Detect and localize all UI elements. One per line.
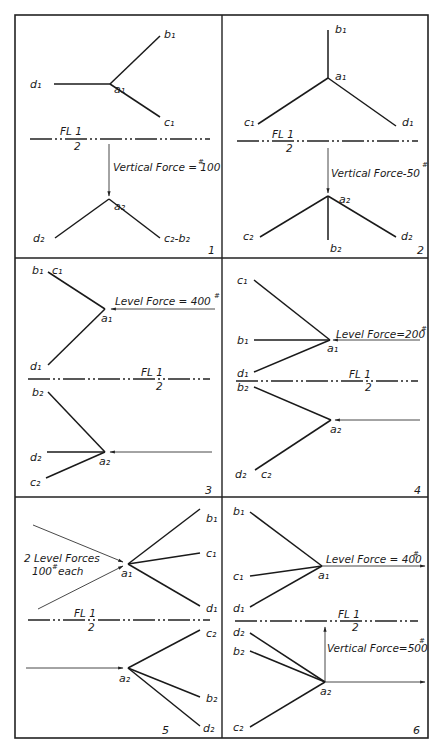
label-a1: a₁ [318, 569, 329, 582]
member-a2-d2 [128, 668, 200, 726]
label-d2: d₂ [30, 451, 42, 464]
fl-label-bottom: 2 [352, 621, 359, 633]
member-a1-d1 [254, 340, 330, 372]
member-a2-b2 [48, 392, 105, 452]
label-b1: b₁ [164, 28, 175, 41]
force-note: Level Force = 400 [115, 295, 211, 307]
force-note: Level Force = 400 [326, 553, 422, 565]
force-diagram-sheet: d₁ a₁ b₁ c₁ FL 1 2 Vertical Force = 100 … [0, 0, 441, 752]
fl-label-top: FL 1 [60, 125, 82, 137]
member-a2-d2 [55, 199, 109, 238]
member-a2-b2 [254, 387, 331, 420]
member-a1-d1 [128, 564, 200, 606]
force-unit: # [413, 550, 419, 558]
member-a1-d1 [328, 78, 396, 126]
label-b1: b₁ [335, 23, 346, 36]
force-note-suffix: each [58, 565, 83, 577]
label-c1: c₁ [164, 116, 174, 129]
force-note: Vertical Force-50 [331, 167, 420, 179]
label-c2-b2: c₂-b₂ [164, 232, 190, 245]
label-d1: d₁ [237, 367, 248, 380]
label-a2: a₂ [339, 193, 351, 206]
label-d2: d₂ [235, 468, 247, 481]
member-a1-b1 [250, 512, 322, 566]
label-d2: d₂ [33, 232, 45, 245]
force-unit: # [214, 292, 220, 300]
label-d1: d₁ [30, 78, 41, 91]
label-a2: a₂ [119, 672, 131, 685]
label-d2: d₂ [401, 230, 413, 243]
member-a2-c2 [128, 630, 200, 668]
panel-number: 5 [162, 724, 169, 737]
label-d1: d₁ [402, 116, 413, 129]
panel-6: b₁ c₁ a₁ d₁ Level Force = 400 # FL 1 2 V… [233, 505, 428, 737]
fl-label-bottom: 2 [156, 380, 163, 392]
fl-label-top: FL 1 [74, 607, 96, 619]
panel-number: 3 [205, 484, 212, 497]
label-b2: b₂ [237, 381, 249, 394]
label-a2: a₂ [114, 200, 126, 213]
label-c1: c₁ [237, 274, 247, 287]
panel-1: d₁ a₁ b₁ c₁ FL 1 2 Vertical Force = 100 … [30, 28, 221, 257]
label-b1: b₁ [206, 512, 217, 525]
label-c1: c₁ [233, 570, 243, 583]
force-note-line1: 2 Level Forces [24, 552, 100, 564]
member-a1-b1 [110, 36, 160, 84]
label-d1: d₁ [30, 360, 41, 373]
label-c2: c₂ [243, 230, 254, 243]
panel-number: 6 [413, 724, 420, 737]
label-a1: a₁ [101, 312, 112, 325]
panel-number: 2 [417, 244, 424, 257]
label-a1: a₁ [121, 567, 132, 580]
label-c1: c₁ [206, 547, 216, 560]
member-a2-b2 [128, 668, 200, 697]
member-a2-b2 [250, 651, 325, 682]
label-b1: b₁ [32, 264, 43, 277]
member-a1-d1 [250, 566, 322, 607]
member-a1-b1c1 [48, 272, 105, 309]
member-a1-c1 [128, 553, 200, 564]
force-note: Vertical Force = 100 [113, 161, 221, 173]
label-c1: c₁ [52, 264, 62, 277]
label-b2: b₂ [330, 242, 342, 255]
label-d1: d₁ [206, 602, 217, 615]
label-d2: d₂ [203, 722, 215, 735]
member-a2-c2 [250, 682, 325, 727]
label-a2: a₂ [330, 423, 342, 436]
panel-3: b₁ c₁ a₁ d₁ Level Force = 400 # FL 1 2 b… [28, 264, 220, 497]
member-a1-b1 [128, 509, 200, 564]
label-a1: a₁ [114, 83, 125, 96]
panel-2: b₁ a₁ c₁ d₁ FL 1 2 Vertical Force-50 # a… [237, 23, 428, 257]
label-b2: b₂ [233, 645, 245, 658]
panel-4: c₁ b₁ a₁ d₁ Level Force=200 # FL 1 2 b₂ … [235, 274, 427, 497]
member-a2-d2 [250, 633, 325, 682]
label-c1: c₁ [244, 116, 254, 129]
force-unit: # [422, 161, 428, 169]
label-b1: b₁ [233, 505, 244, 518]
force-unit: # [198, 158, 204, 166]
label-b2: b₂ [206, 692, 218, 705]
label-d2: d₂ [233, 626, 245, 639]
label-b1: b₁ [237, 334, 248, 347]
member-a2-c2 [260, 196, 328, 237]
fl-label-top: FL 1 [141, 366, 163, 378]
fl-label-top: FL 1 [272, 128, 294, 140]
force-note: Level Force=200 [336, 328, 425, 340]
member-a1-c1 [250, 566, 322, 576]
label-a2: a₂ [99, 455, 111, 468]
label-a2: a₂ [320, 685, 332, 698]
label-b2: b₂ [32, 386, 44, 399]
member-a2-d2 [255, 420, 331, 470]
force-unit: # [421, 325, 427, 333]
label-d1: d₁ [233, 602, 244, 615]
member-a1-d1 [48, 309, 105, 365]
force-note-2: Vertical Force=500 [327, 642, 428, 654]
force-note-line2: 100 [32, 565, 52, 577]
label-a1: a₁ [335, 70, 346, 83]
label-a1: a₁ [327, 342, 338, 355]
member-a2-c2 [46, 452, 105, 478]
force-unit-2: # [419, 637, 425, 645]
label-c2: c₂ [206, 627, 217, 640]
fl-label-bottom: 2 [365, 381, 372, 393]
label-c2: c₂ [30, 476, 41, 489]
